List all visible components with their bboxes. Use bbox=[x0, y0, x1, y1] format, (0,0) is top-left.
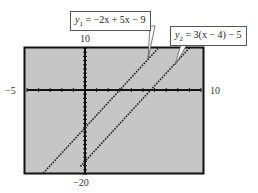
x-min-label: −5 bbox=[5, 86, 16, 96]
eq1-expression: = −2x + 5x − 9 bbox=[83, 14, 146, 25]
equation-y2-label: y2 = 3(x − 4) − 5 bbox=[170, 26, 247, 46]
eq2-expression: = 3(x − 4) − 5 bbox=[183, 29, 242, 40]
screen-background bbox=[25, 48, 204, 174]
y-min-label: −20 bbox=[73, 178, 89, 188]
y-max-label: 10 bbox=[80, 34, 90, 44]
x-max-label: 10 bbox=[210, 86, 220, 96]
equation-y1-label: y1 = −2x + 5x − 9 bbox=[70, 11, 151, 31]
